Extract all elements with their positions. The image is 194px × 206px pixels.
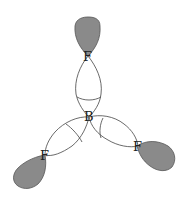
right-bond-lobe (89, 116, 138, 147)
right-fluorine-label: F (133, 139, 142, 154)
left-fluorine-label: F (40, 148, 49, 163)
top-bond-lobe (76, 56, 102, 117)
boron-label: B (84, 109, 94, 124)
top-fluorine-label: F (83, 49, 92, 64)
bf3-orbital-diagram: F B F F (0, 0, 194, 206)
left-bond-lobe (45, 117, 89, 156)
right-fluorine-shaded-lobe (137, 142, 175, 171)
